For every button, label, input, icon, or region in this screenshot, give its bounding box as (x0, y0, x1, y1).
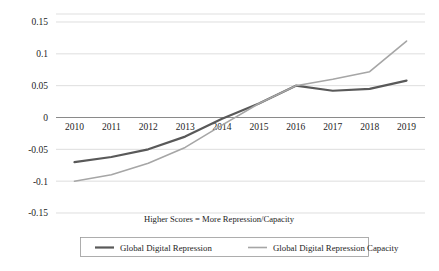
x-tick-label: 2015 (249, 122, 268, 132)
x-tick-label: 2017 (323, 122, 342, 132)
x-tick-label: 2013 (176, 122, 195, 132)
y-tick-label: 0 (43, 113, 48, 123)
axis-note-label: Higher Scores = More Repression/Capacity (144, 214, 295, 224)
caption-strip (0, 263, 439, 271)
legend-label: Global Digital Repression Capacity (273, 243, 399, 253)
x-tick-label: 2011 (102, 122, 121, 132)
y-tick-label: -0.05 (28, 145, 48, 155)
x-tick-label: 2010 (65, 122, 84, 132)
y-tick-label: 0.1 (36, 49, 48, 59)
x-tick-label: 2019 (397, 122, 416, 132)
line-chart: 0.150.10.050-0.05-0.1-0.15 2010201120122… (0, 0, 439, 271)
y-tick-label: -0.1 (33, 177, 48, 187)
x-tick-label: 2014 (213, 122, 232, 132)
chart-background (0, 0, 439, 271)
figure-container: 0.150.10.050-0.05-0.1-0.15 2010201120122… (0, 0, 439, 271)
x-tick-label: 2012 (139, 122, 158, 132)
y-tick-label: 0.05 (31, 81, 48, 91)
y-tick-label: 0.15 (31, 17, 48, 27)
y-tick-label: -0.15 (28, 208, 48, 218)
x-tick-label: 2018 (360, 122, 379, 132)
x-tick-label: 2016 (286, 122, 305, 132)
legend-label: Global Digital Repression (120, 243, 212, 253)
